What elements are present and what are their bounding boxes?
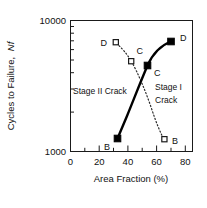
marker-filled-square-b bbox=[114, 135, 121, 142]
fatigue-chart-figure: 10000 1000 0 20 40 60 80 Area Fraction (… bbox=[0, 0, 207, 208]
y-axis-title-plain: Cycles to Failure, bbox=[5, 57, 16, 130]
marker-filled-square-c bbox=[144, 62, 151, 69]
marker-open-square-b bbox=[162, 137, 167, 142]
marker-open-square-c bbox=[129, 59, 134, 64]
point-label-solid-b: B bbox=[104, 142, 110, 152]
x-tick-label-40: 40 bbox=[123, 156, 134, 167]
x-tick-label-0: 0 bbox=[68, 156, 73, 167]
marker-filled-square-d bbox=[168, 38, 175, 45]
point-label-dotted-d: D bbox=[101, 38, 108, 48]
x-tick-label-60: 60 bbox=[151, 156, 162, 167]
x-tick-label-20: 20 bbox=[94, 156, 105, 167]
chart-canvas: 10000 1000 0 20 40 60 80 Area Fraction (… bbox=[0, 0, 207, 208]
y-axis-title-italic: Nf bbox=[5, 40, 16, 51]
point-label-solid-d: D bbox=[180, 33, 187, 43]
y-tick-label-10000: 10000 bbox=[40, 15, 66, 26]
point-label-dotted-c: C bbox=[137, 46, 144, 56]
stage-one-crack-annotation-line1: Stage I bbox=[155, 82, 182, 92]
stage-two-crack-annotation: Stage II Crack bbox=[73, 86, 128, 96]
point-label-solid-c: C bbox=[154, 68, 161, 78]
x-axis-title: Area Fraction (%) bbox=[94, 173, 168, 184]
stage-one-crack-annotation-line2: Crack bbox=[155, 95, 178, 105]
point-label-dotted-b: B bbox=[172, 136, 178, 146]
x-tick-label-80: 80 bbox=[180, 156, 191, 167]
marker-open-square-d bbox=[113, 40, 118, 45]
y-tick-label-1000: 1000 bbox=[45, 146, 66, 157]
